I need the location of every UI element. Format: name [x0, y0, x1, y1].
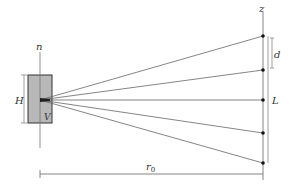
- ray-1: [40, 36, 263, 100]
- label-n: n: [36, 41, 42, 52]
- label-L: L: [271, 95, 279, 106]
- ray-lines: [40, 36, 263, 163]
- receiver-2: [261, 68, 265, 72]
- diagram-canvas: n H V z L d r0: [0, 0, 295, 192]
- label-d: d: [274, 49, 280, 60]
- receiver-1: [261, 34, 265, 38]
- label-H: H: [14, 95, 24, 106]
- ray-2: [40, 70, 263, 100]
- receiver-3: [261, 98, 265, 102]
- ray-5: [40, 100, 263, 163]
- ray-4: [40, 100, 263, 133]
- receiver-4: [261, 131, 265, 135]
- receiver-5: [261, 161, 265, 165]
- label-r0: r0: [146, 161, 155, 174]
- label-z: z: [258, 3, 265, 14]
